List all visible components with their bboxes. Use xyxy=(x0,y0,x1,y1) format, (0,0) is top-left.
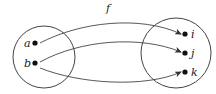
codomain-set-circle xyxy=(141,18,211,88)
domain-set-circle xyxy=(13,26,75,88)
label-i: i xyxy=(191,28,195,41)
label-k: k xyxy=(191,66,198,79)
function-diagram: a b i j k f xyxy=(0,0,216,94)
arrow-b-to-k xyxy=(40,68,181,82)
function-label: f xyxy=(105,2,112,15)
point-j xyxy=(182,50,187,55)
arrow-a-to-i xyxy=(40,23,181,43)
label-b: b xyxy=(24,57,31,70)
point-i xyxy=(182,31,187,36)
label-j: j xyxy=(188,47,195,60)
point-b xyxy=(32,60,37,65)
point-k xyxy=(182,69,187,74)
point-a xyxy=(32,40,37,45)
label-a: a xyxy=(24,37,31,50)
arrow-b-to-j xyxy=(40,42,181,62)
